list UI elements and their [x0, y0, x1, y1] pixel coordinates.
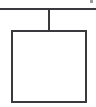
- diagram-canvas: [0, 0, 96, 107]
- connector-line: [48, 9, 50, 32]
- node-box-interior: [13, 32, 85, 101]
- diagram-svg: [0, 0, 96, 107]
- corner-artifact-mark: [90, 0, 93, 3]
